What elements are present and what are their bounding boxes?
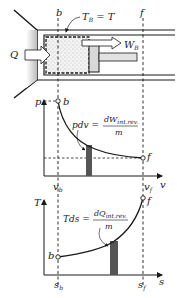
- pv-equation-numerator: dWint.rev.: [104, 115, 139, 125]
- heat-label: Q: [10, 49, 18, 60]
- pv-state-f-label: f: [146, 151, 153, 162]
- piston-rod: [99, 53, 137, 61]
- pv-state-f-point: [141, 156, 145, 160]
- pv-x-axis-label: v: [160, 179, 166, 190]
- boundary-temperature-label: TB = T: [82, 11, 116, 23]
- ts-equation-lhs: Tds =: [63, 214, 90, 224]
- pv-state-b-label: b: [63, 96, 69, 107]
- pv-tick-vb: vb: [53, 181, 63, 193]
- piston-head: [89, 44, 99, 72]
- pv-diagram: p v b f pdv = dWint.rev. m vb vf: [35, 96, 166, 194]
- work-label: WB: [124, 39, 139, 51]
- pv-tick-vf: vf: [144, 181, 154, 194]
- cylinder-label-f: f: [139, 7, 146, 18]
- ts-state-f-point: [141, 196, 145, 200]
- pv-equation-lhs: pdv =: [72, 120, 99, 130]
- ts-y-axis-label: T: [34, 197, 42, 208]
- pv-process-curve: [58, 101, 143, 158]
- pv-equation-denominator: m: [115, 128, 123, 137]
- pv-state-b-point: [56, 99, 60, 103]
- ts-equation-numerator: dQint.rev.: [94, 209, 127, 219]
- ts-tick-sb: sb: [54, 279, 63, 291]
- pv-work-strip: [86, 145, 92, 176]
- ts-state-b-point: [56, 255, 60, 259]
- piston-cylinder-assembly: Q WB TB = T b f: [10, 7, 175, 98]
- cylinder-label-b: b: [56, 7, 62, 18]
- ts-state-f-label: f: [146, 195, 153, 206]
- ts-equation-denominator: m: [105, 222, 113, 231]
- thermo-diagram: Q WB TB = T b f p v b f pdv = dWint.rev.…: [0, 0, 177, 298]
- ts-state-b-label: b: [48, 250, 54, 261]
- ts-tick-sf: sf: [138, 279, 147, 292]
- ts-process-curve: [58, 198, 143, 257]
- ts-heat-strip: [110, 241, 118, 275]
- ts-x-axis-label: s: [159, 276, 164, 287]
- pv-y-axis-label: p: [35, 96, 42, 107]
- ts-diagram: T s b f Tds = dQint.rev. m sb sf: [34, 195, 164, 292]
